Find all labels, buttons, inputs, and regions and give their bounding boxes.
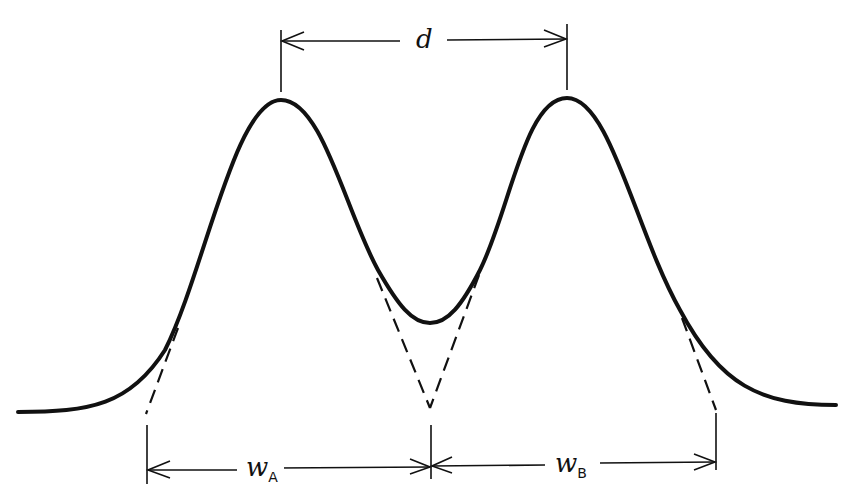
wa-main: w [246, 452, 268, 482]
resolution-diagram: d wA wB [0, 0, 849, 498]
wa-label: wA [240, 454, 284, 484]
chromatogram-curve [18, 98, 836, 412]
diagram-svg [0, 0, 849, 498]
w-dimensions [147, 413, 716, 484]
wb-label: wB [549, 450, 593, 480]
tangent-lines [146, 275, 716, 414]
wb-main: w [555, 448, 577, 478]
tangent-b-right [682, 318, 716, 410]
wa-subscript: A [268, 469, 278, 485]
d-label: d [410, 26, 439, 52]
tangent-a-right [377, 278, 430, 408]
tangent-b-left [430, 275, 479, 408]
wb-subscript: B [577, 465, 587, 481]
